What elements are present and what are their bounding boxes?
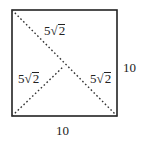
- label-right-side: 10: [123, 61, 136, 74]
- radicand: 2: [58, 24, 66, 37]
- label-right-segment: 5√2: [90, 72, 111, 85]
- radicand: 2: [32, 72, 40, 85]
- radical-sign: √: [97, 71, 104, 86]
- radicand: 2: [104, 72, 112, 85]
- radical-expression: √2: [97, 72, 112, 85]
- square-diagram: 5√2 5√2 5√2 10 10: [0, 0, 141, 144]
- label-left-segment: 5√2: [18, 72, 39, 85]
- radical-sign: √: [25, 71, 32, 86]
- label-bottom-side: 10: [56, 124, 69, 137]
- radical-expression: √2: [25, 72, 40, 85]
- label-top-diagonal: 5√2: [44, 24, 65, 37]
- radical-sign: √: [51, 23, 58, 38]
- radical-expression: √2: [51, 24, 66, 37]
